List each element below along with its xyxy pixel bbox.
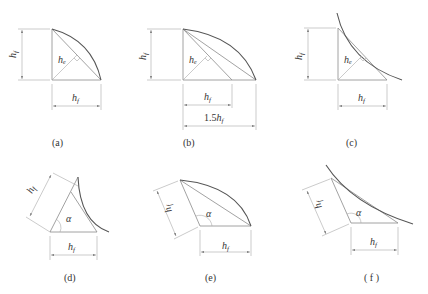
svg-text:he: he <box>344 54 352 65</box>
svg-text:hf: hf <box>370 236 378 249</box>
hypotenuse <box>180 180 251 226</box>
weld-fillet-diagram: hf hf he (a) hf hf 1.5hf he (b) <box>0 0 428 294</box>
right-angle-mark <box>205 58 211 61</box>
panel-f: α hf hf ( f ) <box>302 165 413 284</box>
right-angle-mark <box>74 58 80 61</box>
panel-c: hf hf he (c) <box>293 13 402 149</box>
svg-text:hf: hf <box>358 92 366 105</box>
angle-label: α <box>206 208 212 219</box>
svg-text:1.5hf: 1.5hf <box>204 112 225 125</box>
svg-text:hf: hf <box>137 52 150 60</box>
caption-d: (d) <box>64 272 76 284</box>
svg-text:he: he <box>189 54 197 65</box>
panel-d: α hf hf (d) <box>24 173 109 284</box>
concave-face <box>337 13 402 80</box>
svg-text:hf: hf <box>204 91 212 104</box>
concave-face <box>326 165 413 224</box>
panel-b: hf hf 1.5hf he (b) <box>137 29 256 149</box>
angle-label: α <box>356 207 362 218</box>
svg-text:hf: hf <box>68 241 76 254</box>
svg-text:hf: hf <box>24 183 39 196</box>
caption-e: (e) <box>205 272 216 284</box>
angle-label: α <box>66 213 72 224</box>
inclined-leg <box>50 177 78 232</box>
svg-text:hf: hf <box>222 240 230 253</box>
svg-text:hf: hf <box>293 52 306 60</box>
hypotenuse <box>71 192 97 232</box>
svg-text:hf: hf <box>161 202 176 214</box>
angle-arc <box>56 219 61 232</box>
svg-text:he: he <box>58 54 66 65</box>
caption-c: (c) <box>346 137 357 149</box>
panel-e: α hf hf (e) <box>153 180 251 284</box>
caption-b: (b) <box>183 137 195 149</box>
caption-f: ( f ) <box>364 272 379 284</box>
svg-text:hf: hf <box>72 92 80 105</box>
panel-a: hf hf he (a) <box>7 29 101 149</box>
svg-text:hf: hf <box>7 50 20 58</box>
concave-face <box>78 177 109 232</box>
caption-a: (a) <box>52 137 63 149</box>
height-dimension <box>307 191 326 234</box>
